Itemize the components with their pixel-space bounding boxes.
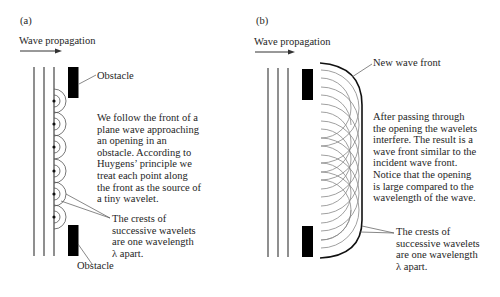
crests-b-line: λ apart. bbox=[396, 261, 480, 273]
propagation-arrow-b bbox=[255, 50, 295, 55]
new-wave-front-label: New wave front bbox=[373, 57, 441, 69]
description-b: After passing through the opening the wa… bbox=[373, 111, 477, 204]
description-b-line: wave front similar to the bbox=[373, 146, 477, 158]
crests-a-line: The crests of bbox=[112, 213, 196, 225]
obstacle-bottom-label-a: Obstacle bbox=[77, 260, 114, 272]
description-a-line: an opening in an bbox=[97, 135, 201, 147]
description-b-line: Notice that the opening bbox=[373, 169, 477, 181]
crests-b-line: are one wavelength bbox=[396, 249, 480, 261]
obstacle-top-label-a: Obstacle bbox=[97, 70, 134, 82]
description-a-line: We follow the front of a bbox=[97, 112, 201, 124]
description-b-line: is large compared to the bbox=[373, 181, 477, 193]
description-b-line: After passing through bbox=[373, 111, 477, 123]
incident-wave-fronts-b bbox=[268, 68, 288, 257]
obstacle-top-b bbox=[302, 69, 313, 100]
panel-b-label: (b) bbox=[256, 15, 268, 27]
new-wave-front-leader bbox=[352, 64, 372, 77]
incident-wave-fronts-a bbox=[34, 67, 54, 256]
propagation-label-b: Wave propagation bbox=[254, 36, 330, 48]
description-a-line: a tiny wavelet. bbox=[97, 193, 201, 205]
description-b-line: incident wave front. bbox=[373, 157, 477, 169]
description-a-line: the front as the source of bbox=[97, 182, 201, 194]
crests-note-b: The crests of successive wavelets are on… bbox=[396, 226, 480, 272]
huygens-wavelets-a bbox=[54, 89, 66, 229]
description-b-line: the opening the wavelets bbox=[373, 123, 477, 135]
crests-a-line: successive wavelets bbox=[112, 225, 196, 237]
propagation-arrow-a bbox=[20, 49, 62, 54]
obstacle-top-a bbox=[68, 67, 79, 98]
crests-b-line: The crests of bbox=[396, 226, 480, 238]
description-a-line: obstacle. According to bbox=[97, 147, 201, 159]
description-a-line: treat each point along bbox=[97, 170, 201, 182]
crests-note-a: The crests of successive wavelets are on… bbox=[112, 213, 196, 259]
crests-a-line: λ apart. bbox=[112, 248, 196, 260]
obstacle-bottom-b bbox=[302, 226, 313, 257]
crests-a-line: are one wavelength bbox=[112, 236, 196, 248]
description-a-line: plane wave approaching bbox=[97, 124, 201, 136]
panel-a-label: (a) bbox=[20, 15, 32, 27]
description-a-line: Huygens’ principle we bbox=[97, 158, 201, 170]
description-b-line: wavelength of the wave. bbox=[373, 192, 477, 204]
description-b-line: interfere. The result is a bbox=[373, 134, 477, 146]
obstacle-top-leader-a bbox=[79, 75, 96, 84]
crests-b-line: successive wavelets bbox=[396, 238, 480, 250]
obstacle-bottom-a bbox=[68, 225, 79, 256]
interfering-wavelets-b bbox=[321, 70, 359, 248]
propagation-label-a: Wave propagation bbox=[19, 35, 95, 47]
description-a: We follow the front of a plane wave appr… bbox=[97, 112, 201, 205]
